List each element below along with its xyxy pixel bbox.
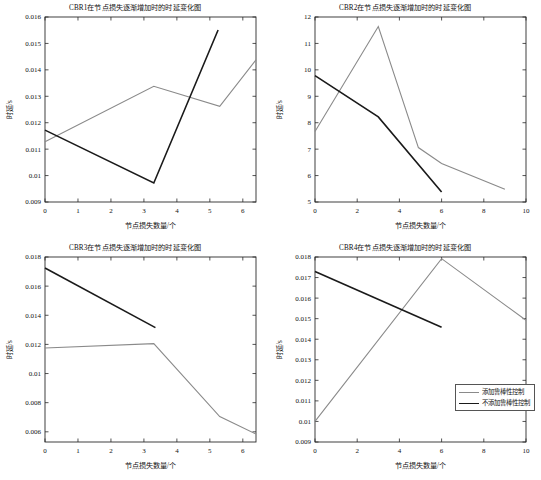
ytick-label-cbr3-1: 0.008 — [25, 399, 41, 407]
ytick-label-cbr2-5: 10 — [304, 66, 312, 74]
ytick-label-cbr2-2: 7 — [308, 146, 312, 154]
series-line-cbr1-norobust — [45, 30, 218, 183]
ytick-label-cbr4-6: 0.015 — [295, 315, 311, 323]
chart-panel-cbr1: CBR1在节点损失逐渐增加时的时延变化图 01234560.0090.010.0… — [0, 0, 270, 240]
chart-legend: 添加鲁棒性控制 不添加鲁棒性控制 — [455, 384, 535, 411]
ytick-label-cbr4-3: 0.012 — [295, 377, 311, 385]
legend-label-robust: 添加鲁棒性控制 — [482, 389, 524, 395]
series-line-cbr1-robust — [45, 60, 256, 142]
ytick-label-cbr3-3: 0.012 — [25, 341, 41, 349]
xtick-label-cbr1-3: 3 — [142, 207, 146, 215]
ytick-label-cbr4-5: 0.014 — [295, 336, 311, 344]
xtick-label-cbr4-4: 8 — [482, 447, 486, 455]
figure-canvas: CBR1在节点损失逐渐增加时的时延变化图 01234560.0090.010.0… — [0, 0, 541, 480]
xtick-label-cbr3-5: 5 — [208, 447, 212, 455]
xtick-label-cbr4-1: 2 — [355, 447, 359, 455]
xtick-label-cbr3-2: 2 — [109, 447, 113, 455]
legend-item-robust: 添加鲁棒性控制 — [459, 387, 524, 398]
ytick-label-cbr2-7: 12 — [304, 13, 312, 21]
xtick-label-cbr2-4: 8 — [482, 207, 486, 215]
ytick-label-cbr4-0: 0.009 — [295, 438, 311, 446]
xtick-label-cbr2-2: 4 — [398, 207, 402, 215]
ytick-label-cbr3-4: 0.014 — [25, 312, 41, 320]
xtick-label-cbr4-2: 4 — [398, 447, 402, 455]
legend-item-norobust: 不添加鲁棒性控制 — [459, 398, 530, 409]
legend-swatch-robust-icon — [459, 392, 479, 393]
xaxis-label-cbr2: 节点损失数量/个 — [395, 221, 446, 230]
plot-area-cbr3: 01234560.0060.0080.010.0120.0140.0160.01… — [0, 240, 270, 480]
ytick-label-cbr4-8: 0.017 — [295, 274, 311, 282]
xaxis-label-cbr1: 节点损失数量/个 — [125, 221, 176, 230]
chart-panel-cbr2: CBR2在节点损失逐渐增加时的时延变化图 024681056789101112节… — [270, 0, 540, 240]
xtick-label-cbr3-0: 0 — [43, 447, 47, 455]
xtick-label-cbr1-5: 5 — [208, 207, 212, 215]
ytick-label-cbr3-5: 0.016 — [25, 283, 41, 291]
yaxis-label-cbr1: 时延/s — [5, 100, 14, 119]
xtick-label-cbr2-3: 6 — [440, 207, 444, 215]
xtick-label-cbr2-0: 0 — [313, 207, 317, 215]
ytick-label-cbr2-6: 11 — [304, 40, 311, 48]
chart-panel-cbr4: CBR4在节点损失逐渐增加时的时延变化图 02468100.0090.010.0… — [270, 240, 540, 480]
xaxis-label-cbr4: 节点损失数量/个 — [395, 461, 446, 470]
xtick-label-cbr1-0: 0 — [43, 207, 47, 215]
ytick-label-cbr1-1: 0.01 — [29, 172, 42, 180]
yaxis-label-cbr3: 时延/s — [5, 340, 14, 359]
xtick-label-cbr2-5: 10 — [523, 207, 531, 215]
ytick-label-cbr2-1: 6 — [308, 172, 312, 180]
yaxis-label-cbr2: 时延/s — [275, 100, 284, 119]
xtick-label-cbr3-3: 3 — [142, 447, 146, 455]
ytick-label-cbr2-4: 9 — [308, 93, 312, 101]
xtick-label-cbr1-6: 6 — [241, 207, 245, 215]
series-line-cbr2-norobust — [315, 76, 442, 192]
legend-swatch-norobust-icon — [459, 403, 479, 404]
ytick-label-cbr1-3: 0.012 — [25, 119, 41, 127]
chart-panel-cbr3: CBR3在节点损失逐渐增加时的时延变化图 01234560.0060.0080.… — [0, 240, 270, 480]
ytick-label-cbr1-0: 0.009 — [25, 198, 41, 206]
xtick-label-cbr1-1: 1 — [76, 207, 80, 215]
ytick-label-cbr1-7: 0.016 — [25, 13, 41, 21]
series-line-cbr4-norobust — [315, 272, 442, 328]
ytick-label-cbr4-1: 0.01 — [299, 418, 312, 426]
plot-area-cbr1: 01234560.0090.010.0110.0120.0130.0140.01… — [0, 0, 270, 240]
xaxis-label-cbr3: 节点损失数量/个 — [125, 461, 176, 470]
plot-frame-cbr2 — [315, 17, 526, 202]
xtick-label-cbr4-0: 0 — [313, 447, 317, 455]
xtick-label-cbr2-1: 2 — [355, 207, 359, 215]
plot-frame-cbr1 — [45, 17, 256, 202]
series-line-cbr3-robust — [45, 344, 256, 434]
ytick-label-cbr4-7: 0.016 — [295, 295, 311, 303]
xtick-label-cbr3-4: 4 — [175, 447, 179, 455]
ytick-label-cbr2-3: 8 — [308, 119, 312, 127]
yaxis-label-cbr4: 时延/s — [275, 340, 284, 359]
xtick-label-cbr1-4: 4 — [175, 207, 179, 215]
xtick-label-cbr1-2: 2 — [109, 207, 113, 215]
ytick-label-cbr3-2: 0.01 — [29, 370, 42, 378]
xtick-label-cbr4-3: 6 — [440, 447, 444, 455]
ytick-label-cbr2-0: 5 — [308, 198, 312, 206]
ytick-label-cbr1-2: 0.011 — [26, 146, 42, 154]
xtick-label-cbr3-6: 6 — [241, 447, 245, 455]
ytick-label-cbr1-5: 0.014 — [25, 66, 41, 74]
legend-label-norobust: 不添加鲁棒性控制 — [482, 400, 530, 406]
series-line-cbr2-robust — [315, 27, 505, 190]
series-line-cbr3-norobust — [45, 268, 155, 328]
ytick-label-cbr3-6: 0.018 — [25, 253, 41, 261]
ytick-label-cbr4-2: 0.011 — [296, 397, 312, 405]
ytick-label-cbr4-4: 0.013 — [295, 356, 311, 364]
xtick-label-cbr3-1: 1 — [76, 447, 80, 455]
ytick-label-cbr1-6: 0.015 — [25, 40, 41, 48]
plot-area-cbr4: 02468100.0090.010.0110.0120.0130.0140.01… — [270, 240, 540, 480]
plot-area-cbr2: 024681056789101112节点损失数量/个时延/s — [270, 0, 540, 240]
ytick-label-cbr4-9: 0.018 — [295, 253, 311, 261]
xtick-label-cbr4-5: 10 — [523, 447, 531, 455]
ytick-label-cbr1-4: 0.013 — [25, 93, 41, 101]
ytick-label-cbr3-0: 0.006 — [25, 428, 41, 436]
